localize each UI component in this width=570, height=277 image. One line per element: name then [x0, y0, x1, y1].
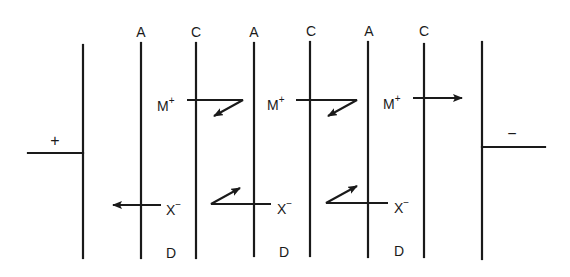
ion-charge: −	[175, 199, 181, 210]
membrane-label-5: A	[364, 24, 373, 38]
compartment-label-2: D	[279, 245, 289, 259]
anion-label-1: X−	[166, 199, 181, 217]
ion-charge: −	[286, 198, 292, 209]
ion-symbol: M	[267, 97, 279, 113]
anion-path-3	[326, 186, 388, 203]
membrane-label-6: C	[419, 24, 429, 38]
cathode-sign: −	[507, 127, 516, 141]
membrane-label-2: C	[191, 25, 201, 39]
anion-label-3: X−	[394, 197, 409, 215]
membrane-label-4: C	[306, 24, 316, 38]
ion-charge: +	[279, 94, 285, 105]
anion-path-2	[211, 188, 271, 204]
cation-label-3: M+	[383, 93, 401, 111]
ion-charge: +	[395, 93, 401, 104]
cation-label-2: M+	[267, 94, 285, 112]
anode-sign: +	[50, 134, 59, 148]
ion-charge: +	[169, 95, 175, 106]
cation-label-1: M+	[157, 95, 175, 113]
cation-path-2	[296, 100, 357, 116]
ion-symbol: X	[277, 201, 286, 217]
ion-symbol: M	[383, 96, 395, 112]
membrane-label-3: A	[249, 25, 258, 39]
ion-symbol: M	[157, 98, 169, 114]
anion-label-2: X−	[277, 198, 292, 216]
ion-symbol: X	[166, 202, 175, 218]
compartment-label-3: D	[394, 244, 404, 258]
compartment-label-1: D	[166, 246, 176, 260]
diagram-lines	[0, 0, 570, 277]
electrodialysis-diagram: + − A C A C A C M+ M+ M+ X− X− X− D D D	[0, 0, 570, 277]
ion-charge: −	[403, 197, 409, 208]
membrane-label-1: A	[136, 25, 145, 39]
ion-symbol: X	[394, 200, 403, 216]
